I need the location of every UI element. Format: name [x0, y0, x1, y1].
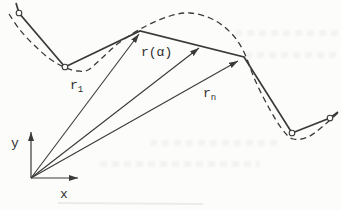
- label-r1-subscript: 1: [78, 85, 83, 95]
- label-rn-subscript: n: [211, 93, 216, 103]
- label-axis-y: y: [11, 137, 19, 151]
- scan-artifact-line: [58, 203, 203, 204]
- vector-r1: [31, 34, 139, 178]
- scanned-textbook-figure: r1 r(α) rn y x: [0, 0, 341, 210]
- label-rn: rn: [203, 87, 216, 103]
- vector-rn: [31, 61, 238, 178]
- vertex-node: [289, 130, 295, 136]
- label-axis-x: x: [60, 188, 68, 202]
- label-axis-x-text: x: [60, 187, 68, 202]
- label-r1-base: r: [70, 78, 78, 93]
- label-axis-y-text: y: [11, 136, 19, 151]
- vertex-node: [16, 10, 22, 16]
- vertex-node: [327, 115, 333, 121]
- label-r-alpha-text: r(α): [141, 45, 172, 60]
- label-r1: r1: [70, 79, 83, 95]
- vector-curve-diagram: [0, 0, 341, 210]
- label-rn-base: r: [203, 86, 211, 101]
- vertex-node: [62, 64, 68, 70]
- vector-r-alpha: [31, 48, 199, 178]
- label-r-alpha: r(α): [141, 46, 172, 60]
- dashed-curve: [9, 13, 339, 140]
